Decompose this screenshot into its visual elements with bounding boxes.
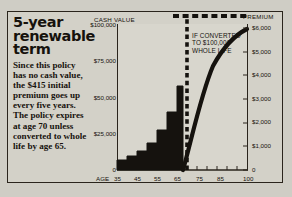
y2-tick-label-2000: $2,000 [252,118,271,125]
y2-tick-label-6000: $6,000 [252,24,271,31]
y-tick-label-75000: $75,000 [88,57,116,64]
y-tick-label-25000: $25,000 [88,130,116,137]
x-tick-label-35: 35 [114,175,121,182]
y2-tick-label-4000: $4,000 [252,71,271,78]
y2-tick-label-0: 0 [252,166,255,173]
conversion-annotation: IF CONVERTED TO $100,000 WHOLE LIFE [192,32,246,54]
y-tick-label-100000: $100,000 [88,21,116,28]
x-tick-label-55: 55 [154,175,161,182]
body-copy: Since this policy has no cash value, the… [13,60,89,151]
y2-tick-label-5000: $5,000 [252,48,271,55]
x-tick-label-65: 65 [174,175,181,182]
x-tick-label-100: 100 [243,175,253,182]
x-tick-label-45: 45 [134,175,141,182]
y-tick-label-0: 0 [88,166,116,173]
x-tick-label-85: 85 [217,175,224,182]
page-title: 5-year renewable term [13,16,87,57]
y-tick-label-50000: $50,000 [88,94,116,101]
y2-axis-title: PREMIUM [243,13,274,20]
x-axis-title: AGE [96,175,109,182]
y2-tick-label-3000: $3,000 [252,95,271,102]
infographic-panel: 5-year renewable term Since this policy … [0,0,292,197]
y2-tick-label-1000: $1,000 [252,142,271,149]
x-tick-label-75: 75 [196,175,203,182]
